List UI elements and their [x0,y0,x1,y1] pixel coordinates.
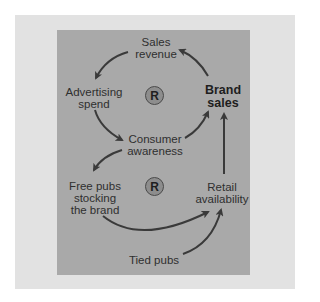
arrow-tied-to-retail [183,210,221,254]
node-tied-pubs: Tied pubs [124,254,184,266]
node-advertising-spend: Advertising spend [58,86,130,110]
node-consumer-awareness: Consumer awareness [118,133,192,157]
reinforcing-loop-badge: R [145,177,164,196]
node-brand-sales: Brand sales [195,84,251,110]
node-retail-availability: Retail availability [189,181,255,205]
node-sales-revenue: Sales revenue [125,36,187,60]
node-free-pubs: Free pubs stocking the brand [62,180,128,216]
reinforcing-loop-badge: R [145,86,164,105]
arrow-revenue-to-advertising [96,52,128,78]
